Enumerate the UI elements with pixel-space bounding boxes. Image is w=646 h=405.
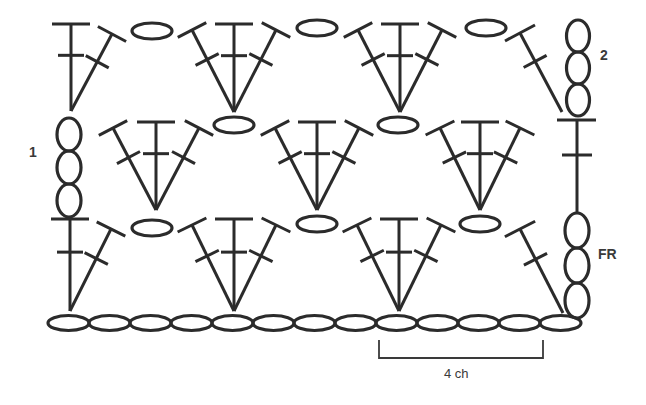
chain-space: [466, 20, 506, 36]
dc-cross-bar: [443, 152, 466, 163]
chain-space: [132, 220, 172, 236]
dc-stem: [399, 225, 441, 311]
dc-cross-bar: [249, 54, 272, 66]
dc-top-bar: [505, 221, 535, 236]
dc-stem: [400, 30, 442, 112]
dc-cross-bar: [524, 253, 547, 265]
double-crochet-symbol: [505, 25, 562, 112]
dc-cross-bar: [414, 250, 437, 261]
chain-stitch: [253, 316, 294, 331]
double-crochet-symbol: [343, 218, 399, 311]
dc-top-bar: [428, 23, 456, 38]
double-crochet-symbol: [71, 26, 126, 111]
dc-stem: [358, 30, 400, 112]
double-crochet-symbol: [234, 218, 290, 311]
dc-stem: [192, 30, 234, 112]
dc-stem: [71, 34, 112, 111]
double-crochet-symbol: [381, 24, 419, 112]
left-turning-chain-row1: [57, 118, 81, 217]
fan-shell: [426, 121, 535, 210]
repeat-label: 4 ch: [444, 366, 469, 381]
dc-top-bar: [506, 121, 535, 135]
chain-stitch: [294, 316, 335, 331]
half-fan: [51, 219, 125, 311]
dc-cross-bar: [362, 54, 385, 66]
double-crochet-symbol: [426, 121, 480, 210]
double-crochet-symbol: [137, 122, 175, 210]
chain-stitch: [458, 316, 499, 331]
single-double-crochets: [505, 25, 563, 313]
double-crochet-symbol: [99, 121, 156, 210]
dc-cross-bar: [332, 152, 355, 164]
fan-shell: [99, 121, 213, 210]
dc-stem: [234, 30, 276, 112]
chain-stitch: [57, 151, 81, 184]
double-crochet-symbol: [178, 218, 234, 311]
dc-top-bar: [262, 218, 291, 232]
dc-stem: [520, 33, 562, 112]
row-label-2: 2: [600, 47, 608, 63]
double-crochet-symbol: [52, 24, 90, 111]
dc-cross-bar: [86, 56, 109, 68]
dc-cross-bar: [172, 151, 195, 163]
dc-stem: [440, 128, 480, 210]
fan-shell: [343, 218, 456, 311]
dc-top-bar: [98, 26, 126, 41]
dc-cross-bar: [249, 250, 272, 261]
dc-top-bar: [97, 222, 126, 236]
double-crochet-symbol: [505, 221, 563, 313]
double-crochet-symbol: [400, 23, 456, 112]
dc-cross-bar: [494, 152, 517, 163]
chain-stitch: [499, 316, 540, 331]
right-post-stitch: [557, 120, 596, 213]
chain-stitch: [567, 84, 590, 116]
chain-space: [378, 117, 418, 133]
crochet-chart: 1 2 FR 4 ch: [0, 0, 646, 405]
half-fans: [51, 24, 126, 311]
dc-cross-bar: [117, 151, 140, 163]
dc-stem: [275, 128, 317, 210]
fan-shell: [178, 218, 291, 311]
chain-stitch: [130, 316, 171, 331]
double-crochet-symbol: [156, 121, 213, 210]
dc-stem: [192, 225, 234, 311]
dc-cross-bar: [85, 253, 108, 265]
double-crochet-symbol: [480, 121, 534, 210]
chain-space: [297, 20, 337, 36]
chain-stitch: [565, 283, 589, 318]
fan-shell: [261, 121, 373, 210]
fan-shell: [344, 23, 456, 112]
dc-top-bar: [261, 121, 289, 136]
foundation-row-label: FR: [598, 246, 617, 262]
double-crochet-symbol: [399, 218, 455, 311]
dc-top-bar: [426, 121, 455, 135]
shell-fans: [99, 23, 535, 311]
chain-stitch: [567, 20, 590, 52]
dc-cross-bar: [415, 54, 438, 66]
chain-stitch: [565, 213, 589, 248]
dc-stem: [156, 128, 199, 210]
double-crochet-symbol: [261, 121, 317, 210]
dc-top-bar: [262, 23, 290, 38]
double-crochet-symbol: [317, 121, 373, 210]
chain-stitch: [212, 316, 253, 331]
double-crochet-symbol: [215, 219, 253, 311]
chain-space: [297, 216, 337, 232]
double-crochet-symbol: [461, 122, 499, 210]
double-crochet-symbol: [70, 222, 125, 311]
chain-space: [460, 216, 500, 232]
chain-stitch: [89, 316, 130, 331]
chain-stitch: [335, 316, 376, 331]
dc-stem: [520, 229, 563, 313]
dc-top-bar: [185, 121, 213, 136]
double-crochet-symbol: [344, 23, 400, 112]
double-crochet-symbol: [215, 24, 253, 112]
dc-top-bar: [178, 23, 206, 38]
turning-chains: [57, 20, 590, 318]
dc-top-bar: [343, 218, 372, 232]
double-crochet-symbol: [51, 219, 89, 311]
dc-cross-bar: [195, 250, 218, 261]
dc-cross-bar: [360, 250, 383, 261]
row-label-1: 1: [29, 144, 37, 160]
chain-stitch: [565, 248, 589, 283]
